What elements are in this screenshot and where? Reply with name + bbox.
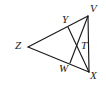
vertex-label-W: W [59, 63, 68, 74]
vertex-label-Z: Z [15, 40, 21, 51]
vertex-label-T: T [81, 40, 87, 51]
segment-VX [88, 16, 89, 72]
vertex-label-Y: Y [62, 14, 68, 25]
vertex-label-V: V [90, 3, 97, 14]
geometry-figure: Z V X Y W T [0, 0, 106, 86]
vertex-label-X: X [90, 70, 97, 81]
segment-ZV [28, 16, 88, 47]
